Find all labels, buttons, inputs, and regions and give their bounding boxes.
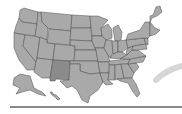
bottom-divider-bar (10, 106, 182, 108)
decorative-arc (0, 0, 182, 114)
